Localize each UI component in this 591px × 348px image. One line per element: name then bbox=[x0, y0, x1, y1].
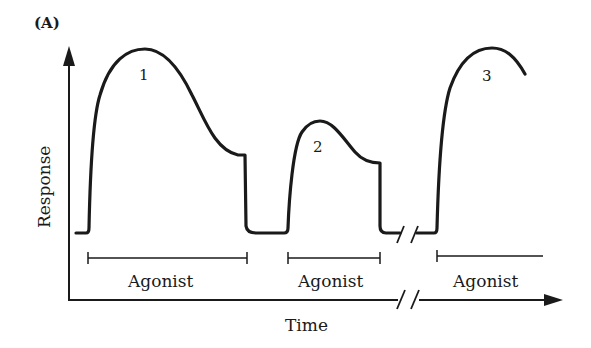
y-axis bbox=[63, 46, 75, 300]
agonist-bar-3 bbox=[437, 250, 543, 262]
x-axis bbox=[68, 290, 563, 309]
response-trace-1-2 bbox=[76, 49, 400, 233]
agonist-label-3: Agonist bbox=[452, 271, 519, 291]
agonist-label-2: Agonist bbox=[297, 271, 364, 291]
response-label-1: 1 bbox=[139, 66, 149, 84]
y-axis-arrow-icon bbox=[63, 46, 75, 66]
x-axis-label: Time bbox=[285, 315, 328, 335]
agonist-bar-2 bbox=[288, 252, 380, 264]
agonist-label-1: Agonist bbox=[127, 271, 194, 291]
response-label-3: 3 bbox=[482, 67, 492, 85]
x-axis-break-icon bbox=[397, 290, 419, 309]
x-axis-arrow-icon bbox=[544, 294, 563, 306]
response-label-2: 2 bbox=[313, 138, 323, 156]
agonist-bar-1 bbox=[88, 252, 247, 264]
trace-break-icon bbox=[397, 226, 418, 243]
panel-label: (A) bbox=[34, 14, 60, 32]
y-axis-label: Response bbox=[34, 146, 54, 228]
desensitization-diagram: (A) Response Time 1 2 3 bbox=[0, 0, 591, 348]
response-trace-3 bbox=[417, 48, 525, 233]
